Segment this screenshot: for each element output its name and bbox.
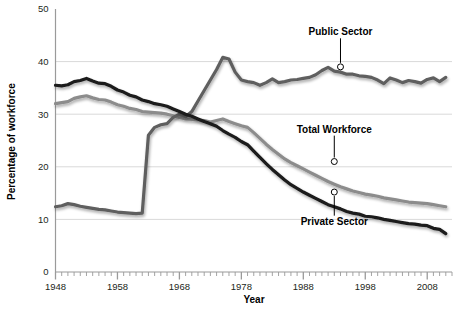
annotation-label-public-sector: Public Sector [309, 26, 373, 37]
chart-container: 01020304050 1948195819681978198819982008… [0, 0, 474, 318]
x-tick-label-1948: 1948 [45, 281, 66, 292]
chart-background [0, 0, 474, 318]
x-tick-label-1998: 1998 [355, 281, 376, 292]
annotation-label-total-workforce: Total Workforce [297, 124, 373, 135]
annotation-marker-public-sector [337, 64, 343, 70]
line-chart: 01020304050 1948195819681978198819982008… [0, 0, 474, 318]
x-tick-label-1968: 1968 [169, 281, 190, 292]
y-tick-label-50: 50 [38, 3, 49, 14]
y-tick-label-30: 30 [38, 109, 49, 120]
y-tick-label-40: 40 [38, 56, 49, 67]
x-tick-label-2008: 2008 [417, 281, 438, 292]
x-axis-title: Year [243, 294, 264, 305]
annotation-marker-private-sector [331, 189, 337, 195]
annotation-label-private-sector: Private Sector [301, 216, 368, 227]
x-tick-label-1958: 1958 [107, 281, 128, 292]
y-tick-label-0: 0 [43, 266, 48, 277]
y-tick-label-20: 20 [38, 161, 49, 172]
y-tick-label-10: 10 [38, 214, 49, 225]
x-tick-label-1978: 1978 [231, 281, 252, 292]
annotation-marker-total-workforce [331, 159, 337, 165]
x-tick-label-1988: 1988 [293, 281, 314, 292]
y-axis-title: Percentage of workforce [6, 83, 17, 200]
